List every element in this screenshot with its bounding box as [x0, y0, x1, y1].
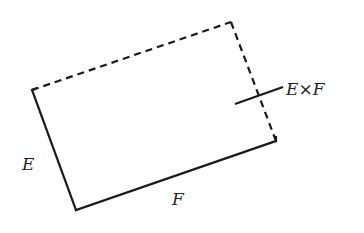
label-f: F — [171, 189, 185, 209]
edge-top-dashed-line — [32, 22, 231, 90]
edge-right-dashed-line — [231, 22, 276, 141]
label-e: E — [21, 154, 35, 174]
edge-e-line — [32, 90, 76, 210]
parallelogram-diagram: E F E×F — [0, 0, 364, 233]
cross-product-vector-line — [235, 87, 283, 104]
label-cross-product: E×F — [285, 79, 326, 99]
